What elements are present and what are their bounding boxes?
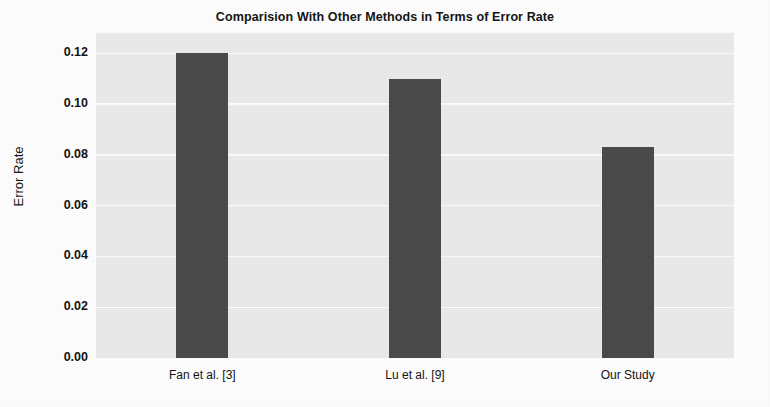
y-tick-label-text: 0.06 <box>64 198 88 212</box>
y-tick-label-text: 0.00 <box>64 350 88 364</box>
x-tick-label-text: Our Study <box>601 368 655 382</box>
bar <box>176 53 228 358</box>
bar <box>389 79 441 358</box>
bar <box>602 147 654 358</box>
chart-figure: Comparision With Other Methods in Terms … <box>0 0 770 407</box>
y-tick-label-text: 0.02 <box>64 299 88 313</box>
plot-area <box>96 33 734 358</box>
y-tick-label-text: 0.08 <box>64 147 88 161</box>
chart-title: Comparision With Other Methods in Terms … <box>0 10 770 24</box>
x-tick-label-text: Lu et al. [9] <box>385 368 444 382</box>
y-axis-label: Error Rate <box>11 97 26 257</box>
y-tick-label-text: 0.12 <box>64 45 88 59</box>
x-tick-label-text: Fan et al. [3] <box>169 368 236 382</box>
y-tick-label-text: 0.10 <box>64 96 88 110</box>
y-tick-label-text: 0.04 <box>64 248 88 262</box>
